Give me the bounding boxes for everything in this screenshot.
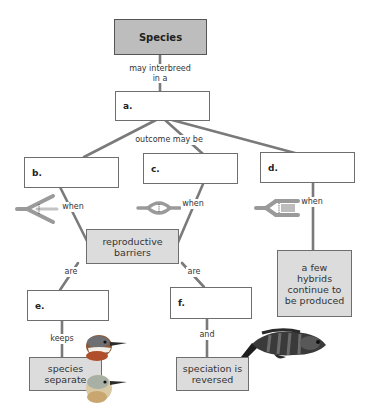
link-label-when-b: when — [61, 202, 85, 212]
link-label-may-interbreed: may interbreed in a — [126, 64, 194, 83]
answer-box-a[interactable]: a. — [115, 91, 210, 121]
bird-heads-image — [83, 330, 129, 410]
box-letter-b: b. — [32, 168, 42, 178]
species-box: Species — [114, 19, 207, 55]
hybrids-produced-box: a few hybrids continue to be produced — [277, 250, 352, 317]
answer-box-b[interactable]: b. — [24, 157, 119, 188]
link-label-and: and — [198, 330, 216, 340]
reproductive-barriers-label: reproductive barriers — [87, 236, 178, 258]
link-label-outcome: outcome may be — [134, 135, 204, 145]
link-label-are-f: are — [186, 267, 202, 277]
link-label-are-e: are — [63, 267, 79, 277]
hybrid-zone-fusion-icon — [136, 199, 182, 217]
link-label-when-c: when — [181, 199, 205, 209]
answer-box-e[interactable]: e. — [27, 290, 109, 321]
answer-box-c[interactable]: c. — [143, 153, 238, 184]
box-letter-c: c. — [151, 164, 160, 174]
answer-box-d[interactable]: d. — [260, 152, 355, 183]
concept-map: Species may interbreed in a a. outcome m… — [0, 0, 367, 413]
hybrid-zone-reinforcement-icon — [15, 193, 63, 225]
reproductive-barriers-box: reproductive barriers — [86, 229, 179, 264]
speciation-reversed-label: speciation is reversed — [177, 363, 248, 385]
box-letter-f: f. — [178, 298, 185, 308]
box-letter-d: d. — [268, 163, 278, 173]
hybrid-zone-stability-icon — [254, 196, 302, 220]
link-label-keeps: keeps — [47, 334, 77, 344]
answer-box-f[interactable]: f. — [170, 287, 252, 319]
link-label-when-d: when — [300, 197, 324, 207]
box-letter-e: e. — [35, 301, 45, 311]
box-letter-a: a. — [123, 101, 133, 111]
species-label: Species — [115, 32, 206, 43]
cichlid-fish-image — [238, 327, 328, 363]
hybrids-produced-label: a few hybrids continue to be produced — [278, 262, 351, 306]
